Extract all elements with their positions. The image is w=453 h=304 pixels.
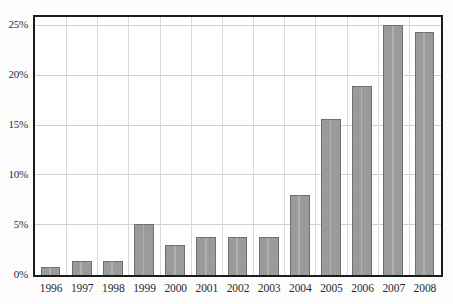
bar-highlight [330,120,332,275]
bar-chart-figure: 0%5%10%15%20%25% 19961997199819992000200… [0,0,453,304]
y-tick-label-0: 0% [14,269,28,280]
bar-2006[interactable] [352,86,372,275]
x-tick-label-2005: 2005 [316,281,347,295]
bar-2008[interactable] [415,32,435,275]
x-tick-label-2007: 2007 [378,281,409,295]
bar-highlight [143,225,145,275]
bar-1999[interactable] [134,224,154,275]
y-tick-label-10: 10% [8,169,28,180]
x-axis: 1996199719981999200020012002200320042005… [33,281,443,301]
x-tick-label-1996: 1996 [36,281,67,295]
x-tick-label-2002: 2002 [222,281,253,295]
bar-highlight [298,196,300,275]
bar-1996[interactable] [41,267,61,275]
bar-2001[interactable] [196,237,216,275]
y-tick-label-5: 5% [14,219,28,230]
bar-1998[interactable] [103,261,123,275]
bar-highlight [111,262,113,275]
y-tick-label-20: 20% [8,69,28,80]
bar-1997[interactable] [72,261,92,275]
bar-highlight [267,238,269,275]
x-tick-label-1998: 1998 [98,281,129,295]
bar-2005[interactable] [321,119,341,275]
y-tick-label-15: 15% [8,119,28,130]
x-tick-label-2000: 2000 [160,281,191,295]
bar-highlight [392,26,394,275]
y-axis: 0%5%10%15%20%25% [0,0,31,304]
bars-layer [35,17,441,275]
bar-highlight [205,238,207,275]
plot-inner [35,17,441,275]
bar-highlight [80,262,82,275]
bar-2004[interactable] [290,195,310,275]
plot-area [33,15,443,277]
x-tick-label-1997: 1997 [67,281,98,295]
bar-highlight [361,87,363,275]
bar-2007[interactable] [383,25,403,275]
bar-highlight [174,246,176,275]
x-tick-label-2004: 2004 [285,281,316,295]
x-tick-label-2003: 2003 [254,281,285,295]
x-tick-label-2008: 2008 [409,281,440,295]
bar-2003[interactable] [259,237,279,275]
x-tick-label-2006: 2006 [347,281,378,295]
x-tick-label-1999: 1999 [129,281,160,295]
x-tick-label-2001: 2001 [191,281,222,295]
bar-highlight [49,268,51,275]
bar-2000[interactable] [165,245,185,275]
bar-2002[interactable] [228,237,248,275]
bar-highlight [236,238,238,275]
y-tick-label-25: 25% [8,19,28,30]
bar-highlight [423,33,425,275]
